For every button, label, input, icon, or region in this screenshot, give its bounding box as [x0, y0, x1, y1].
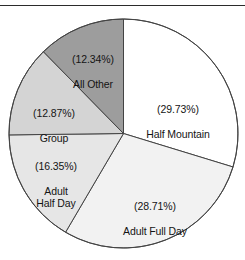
- pie-slice-group: [9, 19, 238, 248]
- pie-chart-graphic: [0, 0, 245, 260]
- pie-chart-figure: (29.73%) Half Mountain (28.71%) Adult Fu…: [0, 0, 245, 260]
